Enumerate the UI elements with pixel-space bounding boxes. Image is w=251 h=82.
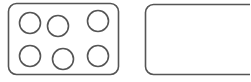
pip-top-left: [20, 13, 41, 34]
left-domino-tile[interactable]: [9, 4, 119, 75]
pip-top-center: [48, 16, 69, 37]
pip-bottom-left: [20, 46, 41, 67]
right-tile-outline[interactable]: [146, 5, 251, 75]
domino-canvas: [0, 0, 250, 82]
pip-bottom-right: [88, 46, 109, 67]
domino-illustration: [0, 0, 250, 82]
pip-bottom-center: [53, 49, 74, 70]
right-domino-tile[interactable]: [146, 5, 251, 75]
pip-top-right: [88, 11, 109, 32]
